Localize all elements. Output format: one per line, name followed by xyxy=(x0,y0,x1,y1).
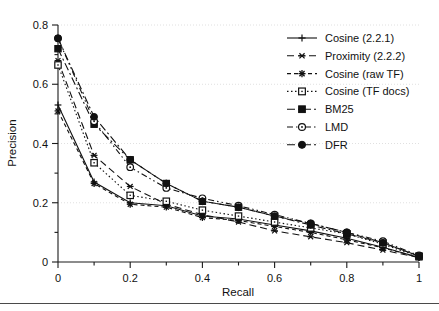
figure-bottom-rule xyxy=(0,303,439,304)
y-tick-label: 0.4 xyxy=(33,138,48,150)
data-point-marker-square-open xyxy=(235,213,241,219)
data-point-marker-square-open xyxy=(163,198,169,204)
series-line xyxy=(58,49,419,256)
data-point-marker-star6 xyxy=(298,53,305,58)
data-point-marker-asterisk xyxy=(55,108,62,115)
legend-item: Cosine (raw TF) xyxy=(287,68,404,80)
x-tick-label: 0.8 xyxy=(339,272,354,284)
data-point-marker-circle-open xyxy=(127,164,134,171)
legend-label: Cosine (raw TF) xyxy=(325,68,404,80)
data-point-marker-circle-filled xyxy=(127,156,134,163)
data-point-marker-plus xyxy=(298,34,305,41)
series-line xyxy=(58,111,419,258)
data-point-marker-circle-filled xyxy=(199,198,206,205)
legend-label: LMD xyxy=(325,121,348,133)
data-point-marker-square-open xyxy=(91,160,97,166)
legend-item: LMD xyxy=(287,121,348,133)
legend-label: DFR xyxy=(325,139,348,151)
x-axis-title: Recall xyxy=(222,286,254,298)
data-point-marker-circle-filled xyxy=(298,141,305,148)
legend-label: Proximity (2.2.2) xyxy=(325,50,405,62)
data-point-marker-circle-open xyxy=(299,124,306,131)
data-point-marker-circle-filled xyxy=(235,204,242,211)
x-tick-label: 1 xyxy=(416,272,422,284)
series-line xyxy=(58,105,419,258)
y-tick-label: 0.2 xyxy=(33,197,48,209)
data-point-marker-circle-filled xyxy=(91,113,98,120)
data-point-marker-plus xyxy=(55,102,62,109)
y-tick-label: 0.8 xyxy=(33,19,48,31)
legend-item: Proximity (2.2.2) xyxy=(287,50,405,62)
y-tick-label: 0 xyxy=(42,256,48,268)
legend-label: Cosine (2.2.1) xyxy=(325,32,394,44)
y-axis-title: Precision xyxy=(6,119,18,166)
y-tick-label: 0.6 xyxy=(33,78,48,90)
data-point-marker-square-open xyxy=(199,207,205,213)
x-tick-label: 0.6 xyxy=(267,272,282,284)
data-point-marker-square-open xyxy=(299,88,306,95)
precision-recall-figure: 00.20.40.60.800.20.40.60.81 Cosine (2.2.… xyxy=(0,0,439,311)
data-point-marker-square-open xyxy=(127,192,133,198)
data-point-marker-asterisk xyxy=(91,180,98,187)
data-point-marker-circle-filled xyxy=(380,239,387,246)
data-point-marker-asterisk xyxy=(127,201,134,208)
chart-canvas: 00.20.40.60.800.20.40.60.81 Cosine (2.2.… xyxy=(0,0,439,300)
data-point-marker-square-filled xyxy=(55,46,61,52)
data-point-marker-circle-filled xyxy=(55,35,62,42)
data-point-marker-circle-filled xyxy=(416,253,423,260)
legend-item: DFR xyxy=(287,139,348,151)
data-point-marker-circle-filled xyxy=(307,220,314,227)
x-tick-label: 0.2 xyxy=(123,272,138,284)
x-tick-label: 0 xyxy=(55,272,61,284)
data-point-marker-asterisk xyxy=(199,214,206,221)
legend-label: Cosine (TF docs) xyxy=(325,85,409,97)
data-point-marker-square-open xyxy=(55,62,61,68)
data-point-marker-asterisk xyxy=(298,70,305,77)
data-point-marker-star6 xyxy=(127,184,134,189)
legend-item: BM25 xyxy=(287,103,354,115)
data-point-marker-circle-filled xyxy=(271,213,278,220)
data-point-marker-circle-filled xyxy=(163,180,170,187)
legend-item: Cosine (2.2.1) xyxy=(287,32,394,44)
x-tick-label: 0.4 xyxy=(195,272,210,284)
legend-label: BM25 xyxy=(325,103,354,115)
legend-item: Cosine (TF docs) xyxy=(287,85,409,97)
data-point-marker-circle-filled xyxy=(343,229,350,236)
chart-legend: Cosine (2.2.1)Proximity (2.2.2)Cosine (r… xyxy=(287,32,409,151)
data-point-marker-square-filled xyxy=(299,106,306,113)
